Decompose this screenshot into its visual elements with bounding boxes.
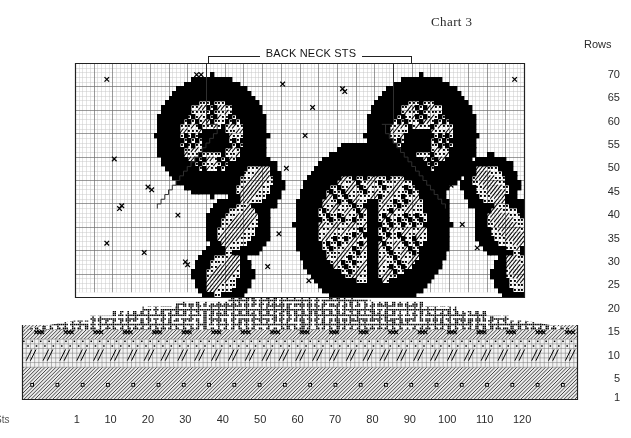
column-tick-label-80: 80 (357, 413, 387, 425)
column-tick-label-120: 120 (507, 413, 537, 425)
column-tick-label-1: 1 (62, 413, 92, 425)
row-tick-label-20: 20 (586, 302, 620, 314)
column-tick-label-90: 90 (395, 413, 425, 425)
row-tick-label-45: 45 (586, 185, 620, 197)
row-tick-label-60: 60 (586, 115, 620, 127)
row-tick-label-70: 70 (586, 68, 620, 80)
row-tick-label-15: 15 (586, 325, 620, 337)
chart-page: Chart 3 Rows Sts BACK NECK STS 706560555… (0, 0, 631, 438)
rows-axis-heading: Rows (584, 38, 612, 50)
row-tick-label-40: 40 (586, 208, 620, 220)
column-tick-label-110: 110 (470, 413, 500, 425)
row-tick-label-25: 25 (586, 278, 620, 290)
column-tick-label-10: 10 (96, 413, 126, 425)
row-tick-label-55: 55 (586, 138, 620, 150)
sts-axis-heading: Sts (0, 414, 9, 425)
column-tick-label-50: 50 (245, 413, 275, 425)
column-tick-label-20: 20 (133, 413, 163, 425)
knitting-chart-grid[interactable] (0, 0, 631, 438)
row-tick-label-5: 5 (586, 372, 620, 384)
row-tick-label-65: 65 (586, 91, 620, 103)
row-tick-label-35: 35 (586, 232, 620, 244)
column-tick-label-100: 100 (432, 413, 462, 425)
column-tick-label-30: 30 (170, 413, 200, 425)
row-tick-label-10: 10 (586, 349, 620, 361)
row-tick-label-1: 1 (586, 391, 620, 403)
row-tick-label-50: 50 (586, 161, 620, 173)
column-tick-label-40: 40 (208, 413, 238, 425)
row-tick-label-30: 30 (586, 255, 620, 267)
page-title: Chart 3 (431, 14, 472, 30)
column-tick-label-60: 60 (283, 413, 313, 425)
column-tick-label-70: 70 (320, 413, 350, 425)
